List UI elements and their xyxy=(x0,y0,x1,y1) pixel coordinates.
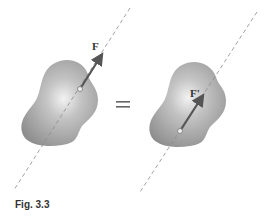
equals-sign xyxy=(116,101,130,108)
left-line-of-action xyxy=(14,8,130,190)
right-body-shape xyxy=(149,62,226,147)
figure-caption: Fig. 3.3 xyxy=(15,199,49,210)
right-application-point xyxy=(178,129,183,134)
left-rigid-body xyxy=(21,60,98,146)
left-body-shape xyxy=(21,60,98,146)
left-application-point xyxy=(78,87,83,92)
right-rigid-body xyxy=(149,62,226,147)
right-force-label: F' xyxy=(190,87,200,99)
diagram-canvas: F F' xyxy=(0,0,275,222)
left-force-label: F xyxy=(92,40,99,52)
